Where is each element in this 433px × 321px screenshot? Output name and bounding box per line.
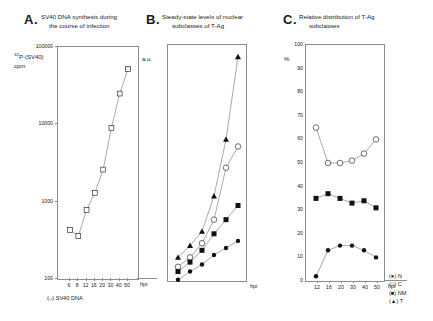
panel-b: B. Steady-state levels of nuclear subcla… [140,0,285,321]
data-point [349,158,355,164]
data-point [314,196,319,201]
panel-a-y-axis-label: 32P-(SV40) [14,52,44,60]
y-tick-mark [55,278,58,279]
data-point [92,190,97,195]
data-point [211,217,217,223]
data-point [373,137,379,143]
series-line [316,246,376,277]
x-tick-label: 50 [118,282,136,288]
x-tick-mark [102,278,103,281]
data-point [200,262,204,266]
panel-a-title-line2: the course of infection [49,22,149,31]
legend-label: T [398,298,403,304]
series-line [316,128,376,163]
legend-item-n: (●) N [389,272,406,280]
data-point [84,208,89,213]
x-tick-mark [86,278,87,281]
data-point [117,91,122,96]
data-point [212,231,217,236]
panel-c-series-svg [306,45,384,281]
legend-item-t: (▲) T [389,297,406,305]
panel-a-y-axis-label-line2: cpm [14,63,25,69]
y-tick-label: 10000 [27,120,53,126]
legend-marker-icon: (▲) [389,298,398,304]
panel-b-letter: B. [146,12,160,27]
data-point [338,196,343,201]
x-tick-mark [77,278,78,281]
panel-b-title-line1: Steady-state levels of nuclear [162,13,282,22]
panel-b-y-axis-label: a.u. [142,56,152,62]
data-point [236,239,240,243]
data-point [223,136,229,141]
x-tick-mark [127,278,128,281]
panel-c-plot-area [305,44,385,282]
y-tick-mark [55,123,58,124]
legend-item-nm: (■) NM [389,289,406,297]
legend-label: NM [396,290,406,296]
panel-a-caption: (□) SV40 DNA [47,295,83,301]
data-point [350,201,355,206]
data-point [337,160,343,166]
legend-label: N [396,273,402,279]
data-point [212,253,216,257]
data-point [223,165,229,171]
panel-c: C. Relative distribution of T-Ag subclas… [283,0,433,321]
data-point [326,248,330,252]
data-point [175,264,181,270]
data-point [361,151,367,157]
data-point [374,255,378,259]
data-point [211,193,217,198]
series-line [178,57,238,258]
y-tick-mark [55,201,58,202]
data-point [224,217,229,222]
panel-b-title-line2: subclasses of T-Ag [172,22,282,31]
legend-item-c: (○) C [389,280,406,288]
data-point [235,144,241,150]
panel-b-series-svg [168,45,246,281]
y-tick-label: 1000 [27,198,53,204]
data-point [325,160,331,166]
data-point [199,240,205,246]
panel-c-letter: C. [283,12,297,27]
data-point [176,278,180,282]
data-point [76,234,81,239]
series-line [178,205,238,271]
data-point [101,167,106,172]
panel-b-plot-area [167,44,247,282]
data-point [176,269,181,274]
panel-a-title-line1: SV40 DNA synthesis during [41,13,146,22]
panel-a-letter: A. [24,12,38,27]
data-point [187,255,193,261]
panel-a: A. SV40 DNA synthesis during the course … [0,0,150,321]
data-point [199,228,205,233]
data-point [338,243,342,247]
data-point [235,54,241,59]
data-point [362,198,367,203]
panel-b-x-axis-label: hpi [250,283,257,289]
data-point [68,228,73,233]
data-point [326,191,331,196]
data-point [314,274,318,278]
x-tick-mark [94,278,95,281]
y-tick-label: 100 [27,275,53,281]
panel-a-series-svg [58,47,138,279]
data-point [236,203,241,208]
x-tick-mark [119,278,120,281]
legend-label: C [396,281,402,287]
data-point [109,125,114,130]
data-point [126,67,131,72]
y-tick-mark [55,46,58,47]
data-point [188,269,192,273]
y-tick-label: 100000 [27,43,53,49]
x-tick-mark [110,278,111,281]
data-point [374,205,379,210]
data-point [350,243,354,247]
x-tick-mark [69,278,70,281]
panel-c-title-line1: Relative distribution of T-Ag [299,13,421,22]
series-line [178,241,238,280]
panel-c-title-line2: subclasses [309,22,419,31]
data-point [188,260,193,265]
data-point [362,248,366,252]
series-line [316,194,376,208]
panel-a-plot-area [57,46,139,280]
